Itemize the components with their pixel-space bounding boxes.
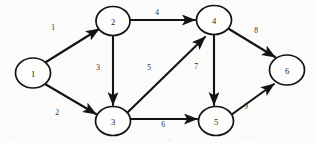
paper-speck: [247, 136, 249, 138]
paper-speck: [305, 12, 307, 14]
edge-5-to-6: [231, 84, 274, 115]
graph-canvas: 123456 123456789: [0, 0, 317, 143]
paper-speck: [8, 136, 10, 138]
node-label-3: 3: [111, 117, 115, 127]
node-label-1: 1: [31, 69, 35, 79]
edge-weight-4-6: 8: [254, 26, 258, 35]
edge-weight-5-6: 9: [244, 102, 248, 111]
edge-4-to-6: [229, 29, 275, 57]
graph-figure: 123456 123456789: [0, 0, 317, 143]
node-3[interactable]: 3: [96, 107, 131, 136]
node-6[interactable]: 6: [270, 55, 305, 85]
node-4[interactable]: 4: [197, 6, 232, 35]
edges-layer: [45, 20, 275, 119]
node-label-5: 5: [214, 117, 218, 127]
edge-3-to-4: [127, 37, 205, 113]
edge-1-to-2: [46, 29, 99, 62]
node-label-6: 6: [285, 66, 289, 76]
node-2[interactable]: 2: [96, 7, 130, 36]
edge-weight-4-5: 7: [194, 62, 198, 71]
edge-weight-2-3: 3: [96, 63, 100, 72]
edge-weight-2-4: 4: [155, 8, 159, 17]
edge-weight-1-2: 1: [51, 23, 55, 32]
edge-weight-3-4: 5: [147, 63, 151, 72]
node-5[interactable]: 5: [199, 107, 234, 136]
edge-weight-3-5: 6: [161, 120, 165, 129]
paper-speck: [168, 139, 171, 141]
edge-weight-1-3: 2: [55, 108, 59, 117]
edge-1-to-3: [45, 84, 96, 114]
node-label-2: 2: [111, 17, 115, 27]
node-1[interactable]: 1: [16, 58, 51, 88]
